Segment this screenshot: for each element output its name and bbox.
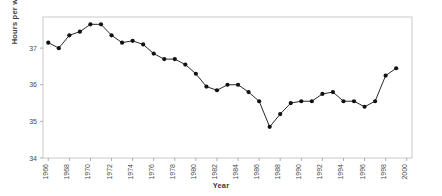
x-axis-tick-label: 1978 [169,164,176,180]
data-point-marker [57,46,61,50]
data-point-marker [341,99,345,103]
x-axis-tick-label: 1998 [380,164,387,180]
x-axis-tick-label: 1992 [316,164,323,180]
y-axis-tick-label: 37 [29,45,37,52]
data-point-marker [131,39,135,43]
data-point-marker [173,57,177,61]
data-point-marker [278,112,282,116]
data-point-marker [236,83,240,87]
data-point-marker [373,99,377,103]
x-axis-tick-label: 1980 [190,164,197,180]
data-point-marker [88,22,92,26]
data-series-line [48,24,396,127]
data-point-marker [268,125,272,129]
x-axis-tick-label: 1982 [211,164,218,180]
data-point-marker [141,42,145,46]
x-axis-tick-label: 1986 [253,164,260,180]
x-axis-tick-label: 1968 [63,164,70,180]
data-point-marker [204,84,208,88]
x-axis-tick-label: 1970 [84,164,91,180]
x-axis-title: Year [0,181,442,190]
data-point-marker [289,101,293,105]
data-point-marker [257,99,261,103]
data-point-marker [320,92,324,96]
x-axis-tick-label: 1966 [42,164,49,180]
data-point-marker [352,99,356,103]
data-point-marker [194,72,198,76]
x-axis-tick-label: 1974 [127,164,134,180]
data-point-marker [152,52,156,56]
data-point-marker [331,90,335,94]
plot-frame [43,17,412,158]
data-point-marker [299,99,303,103]
data-point-marker [109,33,113,37]
data-point-marker [225,83,229,87]
data-point-marker [310,99,314,103]
data-point-marker [183,63,187,67]
data-point-marker [215,88,219,92]
chart-plot-area: 3435363719661968197019721974197619781980… [0,0,442,196]
y-axis-tick-label: 34 [29,155,37,162]
x-axis-tick-label: 1984 [232,164,239,180]
data-point-marker [246,90,250,94]
y-axis-title: Hours per week [10,0,19,60]
line-chart: 3435363719661968197019721974197619781980… [0,0,442,196]
data-point-marker [46,41,50,45]
y-axis-tick-label: 35 [29,118,37,125]
x-axis-tick-label: 2000 [401,164,408,180]
x-axis-tick-label: 1996 [359,164,366,180]
data-point-marker [78,30,82,34]
data-point-marker [99,22,103,26]
x-axis-tick-label: 1990 [295,164,302,180]
data-point-marker [362,105,366,109]
data-point-marker [120,41,124,45]
data-point-marker [384,74,388,78]
x-axis-tick-label: 1972 [106,164,113,180]
x-axis-tick-label: 1994 [337,164,344,180]
data-point-marker [394,66,398,70]
data-point-marker [162,57,166,61]
data-point-marker [67,33,71,37]
y-axis-tick-label: 36 [29,81,37,88]
x-axis-tick-label: 1988 [274,164,281,180]
x-axis-tick-label: 1976 [148,164,155,180]
